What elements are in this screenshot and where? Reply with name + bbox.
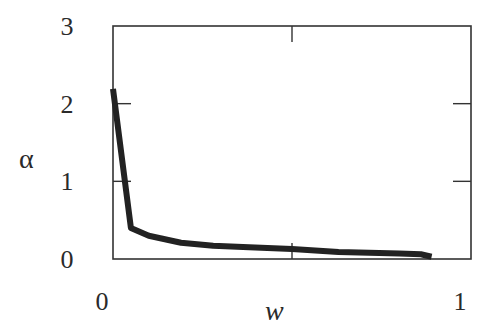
x-tick-label: 0 (96, 287, 109, 316)
y-tick-label: 3 (61, 12, 74, 41)
y-axis-label: α (19, 143, 34, 174)
y-tick-labels: 0123 (61, 12, 74, 274)
line-chart: 0123 01 α w (0, 0, 493, 334)
x-axis-label: w (265, 295, 284, 326)
alpha-curve (113, 89, 432, 257)
y-tick-label: 1 (61, 167, 74, 196)
y-tick-label: 0 (61, 245, 74, 274)
tick-marks (113, 26, 471, 259)
plot-frame (113, 26, 471, 259)
y-tick-label: 2 (61, 90, 74, 119)
x-tick-label: 1 (454, 287, 467, 316)
